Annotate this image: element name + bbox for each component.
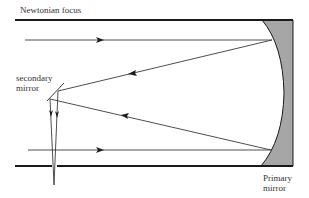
newtonian-telescope-diagram: Newtonian focus secondary mirror Primary… bbox=[0, 0, 309, 198]
arrow-left-icon bbox=[128, 70, 137, 76]
primary-mirror-label-line1: Primary bbox=[263, 173, 292, 183]
primary-mirror-label-line2: mirror bbox=[263, 183, 292, 193]
secondary-mirror-label: secondary mirror bbox=[16, 73, 52, 93]
focus-ray-right bbox=[54, 91, 58, 185]
secondary-mirror-label-line1: secondary bbox=[16, 73, 52, 83]
reflected-ray-top bbox=[58, 40, 272, 91]
primary-mirror-label: Primary mirror bbox=[263, 173, 292, 193]
secondary-mirror-label-line2: mirror bbox=[16, 83, 52, 93]
reflected-ray-bottom bbox=[50, 99, 271, 150]
newtonian-focus-label: Newtonian focus bbox=[20, 5, 81, 15]
diagram-canvas bbox=[0, 0, 309, 198]
